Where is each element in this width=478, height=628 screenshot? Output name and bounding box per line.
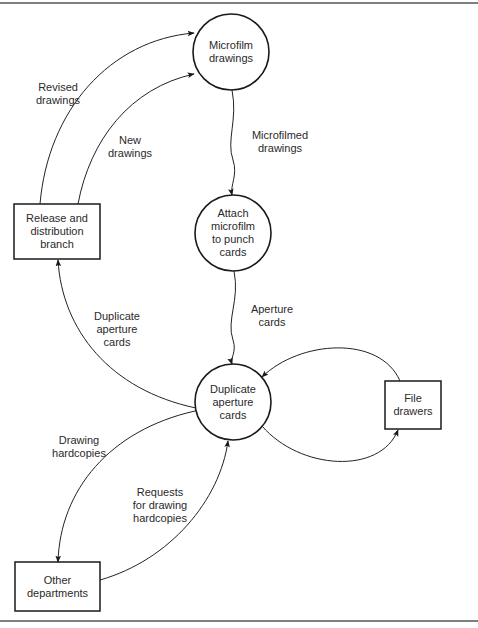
flow-label-drawing-hardcopies: Drawing hardcopies [48,434,110,460]
node-label-other-departments: Other departments [15,562,100,611]
label-line: Revised [28,81,88,94]
node-line: cards [220,409,247,422]
flow-label-requests-drawing-hardcopies: Requests for drawing hardcopies [124,486,196,525]
node-label-attach: Attach microfilm to punch cards [195,195,271,271]
label-line: drawings [100,147,160,160]
label-line: New [100,134,160,147]
node-line: cards [220,246,247,259]
node-line: drawers [393,405,432,418]
label-line: cards [242,316,302,329]
flow-revised-drawings [40,33,194,204]
label-line: drawings [242,142,318,155]
node-line: Release and [26,212,88,225]
label-line: cards [82,336,152,349]
flow-label-duplicate-aperture-cards: Duplicate aperture cards [82,310,152,349]
node-line: Attach [217,207,248,220]
label-line: Drawing [48,434,110,447]
label-line: Aperture [242,303,302,316]
node-line: drawings [209,52,253,65]
flow-microfilmed-drawings [231,90,235,195]
node-label-duplicate: Duplicate aperture cards [195,364,271,440]
node-label-microfilm: Microfilm drawings [193,14,269,90]
label-line: hardcopies [124,512,196,525]
label-line: Requests [124,486,196,499]
flow-label-aperture-cards: Aperture cards [242,303,302,329]
node-label-file-drawers: File drawers [385,381,441,429]
node-line: Microfilm [209,39,253,52]
flow-from-file-drawers [262,348,400,381]
flow-aperture-cards [231,271,236,364]
node-line: Other [44,574,72,587]
node-line: Duplicate [210,383,256,396]
label-line: drawings [28,94,88,107]
node-line: microfilm [211,220,255,233]
flow-to-file-drawers [262,426,398,461]
node-line: aperture [213,396,254,409]
label-line: hardcopies [48,447,110,460]
flow-label-microfilmed-drawings: Microfilmed drawings [242,129,318,155]
node-line: File [404,392,422,405]
label-line: Duplicate [82,310,152,323]
flow-label-new-drawings: New drawings [100,134,160,160]
label-line: aperture [82,323,152,336]
node-line: branch [40,238,74,251]
label-line: for drawing [124,499,196,512]
node-label-release: Release and distribution branch [14,204,100,259]
node-line: distribution [30,225,83,238]
label-line: Microfilmed [242,129,318,142]
node-line: to punch [212,233,254,246]
node-line: departments [27,587,88,600]
flow-label-revised-drawings: Revised drawings [28,81,88,107]
